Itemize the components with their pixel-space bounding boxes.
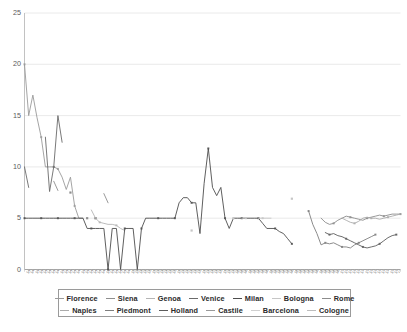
legend-line-icon [206,310,215,311]
legend-item-castile[interactable]: Castile [206,306,243,315]
legend-label: Naples [72,306,97,315]
legend-item-venice[interactable]: Venice [189,294,225,303]
legend-row: FlorenceSienaGenoaVeniceMilanBolognaRome [63,293,346,304]
series-genoa [91,210,124,231]
legend-label: Holland [171,306,198,315]
series-rome [321,213,401,224]
legend-line-icon [233,298,242,299]
legend-item-bologna[interactable]: Bologna [272,294,314,303]
legend-line-icon [322,298,331,299]
series-milan [24,147,293,270]
chart-legend: FlorenceSienaGenoaVeniceMilanBolognaRome… [58,289,351,317]
legend-item-piedmont[interactable]: Piedmont [105,306,151,315]
legend-line-icon [146,298,155,299]
legend-label: Cologne [319,306,349,315]
legend-item-cologne[interactable]: Cologne [307,306,349,315]
legend-label: Piedmont [117,306,151,315]
legend-label: Rome [334,294,355,303]
legend-item-barcelona[interactable]: Barcelona [251,306,299,315]
legend-line-icon [60,310,69,311]
legend-label: Genoa [158,294,181,303]
legend-item-genoa[interactable]: Genoa [146,294,181,303]
legend-label: Siena [118,294,138,303]
legend-label: Bologna [284,294,314,303]
legend-line-icon [189,298,198,299]
legend-line-icon [307,310,316,311]
legend-line-icon [55,298,64,299]
legend-item-naples[interactable]: Naples [60,306,97,315]
legend-line-icon [159,310,168,311]
legend-label: Barcelona [263,306,299,315]
legend-line-icon [251,310,260,311]
legend-item-rome[interactable]: Rome [322,294,355,303]
legend-label: Florence [67,294,98,303]
legend-label: Castile [218,306,243,315]
series-holland [325,233,397,248]
legend-row: NaplesPiedmontHollandCastileBarcelonaCol… [63,305,346,316]
line-chart: 2520151050 14001404140814121416142014241… [0,0,407,332]
legend-line-icon [272,298,281,299]
legend-line-icon [105,310,114,311]
series-siena [54,181,108,219]
legend-item-holland[interactable]: Holland [159,306,198,315]
series-naples [342,214,400,224]
series-florence [24,63,83,218]
legend-item-milan[interactable]: Milan [233,294,264,303]
series-piedmont [308,210,377,248]
legend-item-siena[interactable]: Siena [106,294,138,303]
legend-label: Milan [245,294,264,303]
legend-item-florence[interactable]: Florence [55,294,98,303]
legend-line-icon [106,298,115,299]
series-bologna [191,198,293,232]
legend-label: Venice [201,294,225,303]
